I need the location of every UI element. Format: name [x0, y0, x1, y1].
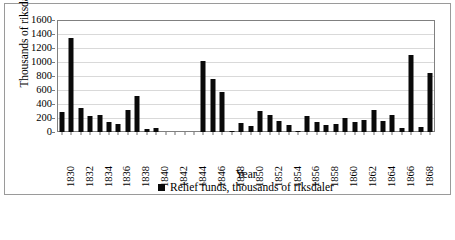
- bar-slot: [312, 20, 321, 132]
- bar-slot: [293, 20, 302, 132]
- x-tick-mark: [335, 132, 336, 135]
- bar-slot: [416, 20, 425, 132]
- bar-slot: [95, 20, 104, 132]
- y-tick-mark: [52, 76, 55, 77]
- x-tick-mark: [326, 132, 327, 135]
- x-axis-tick-labels: 1830183218341836183818401842184418461848…: [57, 136, 435, 168]
- bar: [210, 79, 215, 132]
- bar: [97, 115, 102, 133]
- x-tick-mark: [392, 132, 393, 135]
- bar-slot: [350, 20, 359, 132]
- x-tick-mark: [156, 132, 157, 135]
- bar: [371, 110, 376, 132]
- x-tick-mark: [99, 132, 100, 135]
- bar-slot: [152, 20, 161, 132]
- x-tick-mark: [269, 132, 270, 135]
- bar-slot: [114, 20, 123, 132]
- bar-slot: [76, 20, 85, 132]
- x-tick-mark: [80, 132, 81, 135]
- bar: [362, 120, 367, 132]
- x-tick-mark: [307, 132, 308, 135]
- bar: [286, 125, 291, 132]
- bar: [277, 121, 282, 132]
- bar: [352, 122, 357, 132]
- x-tick-mark: [250, 132, 251, 135]
- x-tick-mark: [288, 132, 289, 135]
- y-tick-mark: [52, 20, 55, 21]
- bar-series: [57, 20, 435, 132]
- bar-slot: [104, 20, 113, 132]
- y-tick-label: 600: [36, 85, 52, 95]
- x-tick-mark: [194, 132, 195, 135]
- bar-slot: [303, 20, 312, 132]
- bar: [116, 124, 121, 132]
- bar-slot: [133, 20, 142, 132]
- legend-label: Relief funds, thousands of riksdaler: [170, 181, 334, 193]
- legend-swatch-icon: [158, 184, 165, 191]
- x-tick-mark: [146, 132, 147, 135]
- bar-slot: [161, 20, 170, 132]
- x-tick-mark: [71, 132, 72, 135]
- x-tick-mark: [420, 132, 421, 135]
- bar-slot: [246, 20, 255, 132]
- bar-slot: [218, 20, 227, 132]
- bar-slot: [426, 20, 435, 132]
- bar: [390, 115, 395, 133]
- bar: [59, 112, 64, 132]
- x-tick-mark: [241, 132, 242, 135]
- x-tick-mark: [118, 132, 119, 135]
- bar: [106, 122, 111, 133]
- x-tick-mark: [203, 132, 204, 135]
- y-tick-label: 1000: [31, 57, 52, 67]
- bar-slot: [274, 20, 283, 132]
- x-tick-mark: [430, 132, 431, 135]
- y-axis-tick-labels: 02004006008001000120014001600: [14, 20, 55, 132]
- x-tick-mark: [137, 132, 138, 135]
- bar: [381, 121, 386, 132]
- y-tick-label: 400: [36, 99, 52, 109]
- bar: [125, 110, 130, 132]
- chart-legend: Relief funds, thousands of riksdaler: [57, 181, 435, 193]
- bar: [267, 115, 272, 133]
- bar-slot: [388, 20, 397, 132]
- x-tick-mark: [127, 132, 128, 135]
- x-tick-mark: [364, 132, 365, 135]
- x-tick-mark: [354, 132, 355, 135]
- bar-slot: [359, 20, 368, 132]
- bar: [220, 92, 225, 132]
- bar-slot: [208, 20, 217, 132]
- bar-slot: [66, 20, 75, 132]
- bar: [258, 111, 263, 132]
- bar-slot: [397, 20, 406, 132]
- x-tick-mark: [345, 132, 346, 135]
- y-tick-label: 1400: [31, 29, 52, 39]
- figure-caption: [8, 200, 338, 209]
- x-tick-mark: [297, 132, 298, 135]
- bar: [201, 61, 206, 132]
- bar: [428, 73, 433, 132]
- bar: [135, 96, 140, 132]
- y-tick-mark: [52, 90, 55, 91]
- bar: [343, 118, 348, 132]
- bar-slot: [407, 20, 416, 132]
- bar-slot: [142, 20, 151, 132]
- x-tick-mark: [90, 132, 91, 135]
- bar-slot: [284, 20, 293, 132]
- x-tick-mark: [165, 132, 166, 135]
- x-tick-mark: [184, 132, 185, 135]
- bar-slot: [255, 20, 264, 132]
- bar: [324, 125, 329, 132]
- x-tick-mark: [260, 132, 261, 135]
- bar-slot: [237, 20, 246, 132]
- bar: [88, 116, 93, 132]
- x-tick-mark: [383, 132, 384, 135]
- y-tick-mark: [52, 118, 55, 119]
- x-tick-mark: [108, 132, 109, 135]
- y-tick-mark: [52, 48, 55, 49]
- bar-slot: [378, 20, 387, 132]
- x-tick-mark: [411, 132, 412, 135]
- y-tick-label: 200: [36, 113, 52, 123]
- bar-slot: [85, 20, 94, 132]
- y-tick-label: 800: [36, 71, 52, 81]
- bar-slot: [331, 20, 340, 132]
